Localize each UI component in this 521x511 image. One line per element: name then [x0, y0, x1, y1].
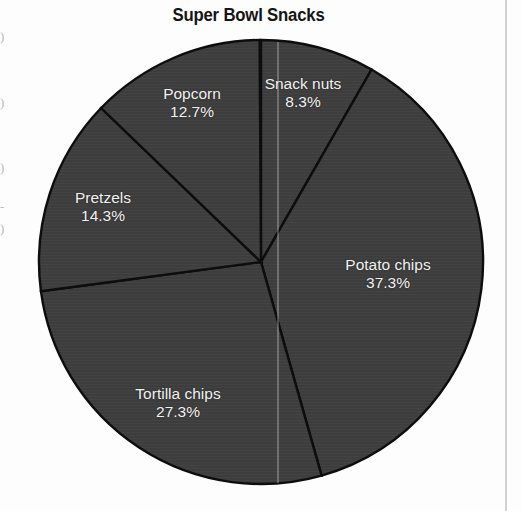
column-rule	[505, 0, 507, 511]
pie-chart-svg	[0, 0, 521, 511]
pie-slice-group	[39, 40, 483, 484]
pie-chart: Snack nuts8.3%Potato chips37.3%Tortilla …	[0, 0, 521, 511]
chart-page: )))-) Super Bowl Snacks Snack nuts8.3%Po…	[0, 0, 521, 511]
